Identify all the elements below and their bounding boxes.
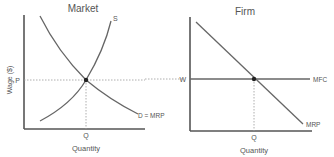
supply-label: S	[113, 15, 118, 22]
firm-wage-label: W	[179, 76, 186, 83]
diagram-canvas: Market Wage ($) P S D = MRP Q Quantity F…	[0, 0, 334, 157]
market-equilibrium-point	[84, 78, 88, 82]
firm-chart: Firm W MFC MRP Q Quantity	[145, 6, 327, 155]
market-y-label: Wage ($)	[6, 66, 14, 95]
demand-curve	[40, 16, 138, 114]
mrp-label: MRP	[306, 121, 320, 128]
mrp-line	[196, 22, 303, 124]
firm-x-label: Quantity	[240, 146, 268, 155]
market-price-label: P	[15, 77, 20, 84]
market-chart: Market Wage ($) P S D = MRP Q Quantity	[6, 3, 165, 153]
firm-q-label: Q	[251, 134, 257, 142]
firm-optimum-point	[252, 77, 256, 81]
mfc-label: MFC	[313, 76, 327, 83]
demand-label: D = MRP	[138, 112, 165, 119]
firm-title: Firm	[235, 6, 255, 17]
market-q-label: Q	[83, 132, 89, 140]
market-title: Market	[68, 3, 99, 14]
market-x-label: Quantity	[72, 144, 100, 153]
